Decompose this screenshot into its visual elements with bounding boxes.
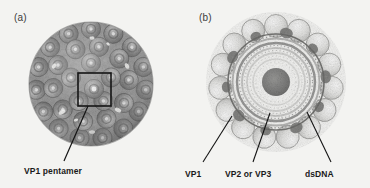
panel-b-artwork	[185, 0, 370, 188]
caption-vp1-pentamer: VP1 pentamer	[24, 166, 82, 176]
caption-dsdna: dsDNA	[305, 169, 334, 179]
capsid-section-b	[203, 8, 351, 158]
caption-vp2-or-vp3: VP2 or VP3	[225, 169, 271, 179]
panel-a: (a) VP1 pentamer	[0, 0, 185, 188]
panel-label-a: (a)	[14, 12, 27, 23]
figure-container: (a) VP1 pentamer	[0, 0, 370, 188]
panel-label-b: (b)	[199, 12, 212, 23]
capsid-body-a	[20, 13, 162, 155]
caption-vp1: VP1	[185, 169, 201, 179]
panel-b: (b) VP1 VP2 or VP3 dsDNA	[185, 0, 370, 188]
panel-a-artwork	[0, 0, 185, 188]
